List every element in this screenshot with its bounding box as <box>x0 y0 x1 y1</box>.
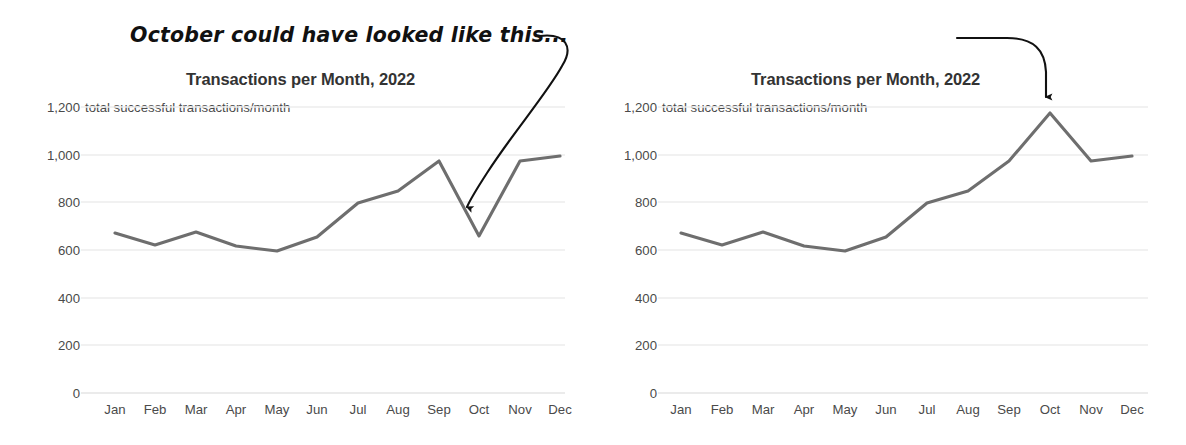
xtick-label: Oct <box>1040 402 1061 417</box>
xtick-label: Aug <box>956 402 979 417</box>
gridlines-left <box>81 107 565 393</box>
right-plot-area <box>593 0 1186 445</box>
ytick-label: 200 <box>0 338 80 353</box>
xtick-label: Feb <box>144 402 167 417</box>
xtick-label: Dec <box>1120 402 1143 417</box>
xtick-label: Aug <box>386 402 409 417</box>
ytick-label: 1,200 <box>0 100 80 115</box>
figure-canvas: October could have looked like this... T… <box>0 0 1186 445</box>
xtick-label: Nov <box>508 402 531 417</box>
xtick-label: Apr <box>226 402 247 417</box>
ytick-label: 0 <box>0 386 80 401</box>
xtick-label: Jan <box>670 402 691 417</box>
ytick-label: 200 <box>593 338 657 353</box>
xtick-label: Sep <box>427 402 450 417</box>
xtick-label: Jan <box>104 402 125 417</box>
xtick-label: Feb <box>711 402 734 417</box>
ytick-label: 1,200 <box>593 100 657 115</box>
xtick-label: Jun <box>306 402 327 417</box>
ytick-label: 1,000 <box>0 148 80 163</box>
xtick-label: May <box>833 402 858 417</box>
ytick-label: 800 <box>0 195 80 210</box>
ytick-label: 600 <box>0 243 80 258</box>
xtick-label: Jul <box>919 402 936 417</box>
xtick-label: Jun <box>875 402 896 417</box>
series-line-right <box>681 113 1132 251</box>
left-chart-panel: October could have looked like this... T… <box>0 0 593 445</box>
xtick-label: Jul <box>350 402 367 417</box>
xtick-label: Mar <box>185 402 208 417</box>
ytick-label: 400 <box>0 291 80 306</box>
xtick-label: Nov <box>1079 402 1102 417</box>
xtick-label: May <box>265 402 290 417</box>
ytick-label: 1,000 <box>593 148 657 163</box>
ytick-label: 0 <box>593 386 657 401</box>
right-chart-panel: ...or like this. Transactions per Month,… <box>593 0 1186 445</box>
ytick-label: 400 <box>593 291 657 306</box>
ytick-label: 800 <box>593 195 657 210</box>
gridlines-right <box>658 107 1148 393</box>
xtick-label: Sep <box>997 402 1020 417</box>
xtick-label: Dec <box>548 402 571 417</box>
xtick-label: Mar <box>752 402 775 417</box>
ytick-label: 600 <box>593 243 657 258</box>
xtick-label: Oct <box>469 402 490 417</box>
series-line-left <box>115 156 560 251</box>
left-plot-area <box>0 0 593 445</box>
xtick-label: Apr <box>794 402 815 417</box>
